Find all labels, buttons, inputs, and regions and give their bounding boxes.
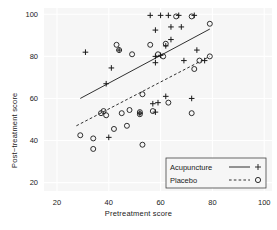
- legend-label-placebo: Placebo: [170, 176, 197, 185]
- svg-text:60: 60: [30, 94, 38, 103]
- svg-text:100: 100: [258, 198, 271, 207]
- svg-text:60: 60: [156, 198, 164, 207]
- x-axis-label: Pretreatment score: [0, 209, 277, 218]
- legend-label-acupuncture: Acupuncture: [170, 163, 212, 172]
- svg-text:80: 80: [30, 52, 38, 61]
- svg-text:20: 20: [53, 198, 61, 207]
- legend[interactable]: Acupuncture Placebo: [166, 158, 266, 188]
- svg-text:40: 40: [105, 198, 113, 207]
- y-axis-label: Post−treatment score: [10, 93, 19, 169]
- svg-text:80: 80: [208, 198, 216, 207]
- plot-canvas: Acupuncture Placebo 20406080100204060801…: [0, 0, 277, 230]
- svg-text:20: 20: [30, 178, 38, 187]
- svg-text:40: 40: [30, 136, 38, 145]
- scatter-plot-figure: Acupuncture Placebo 20406080100204060801…: [0, 0, 277, 230]
- svg-text:100: 100: [25, 10, 38, 19]
